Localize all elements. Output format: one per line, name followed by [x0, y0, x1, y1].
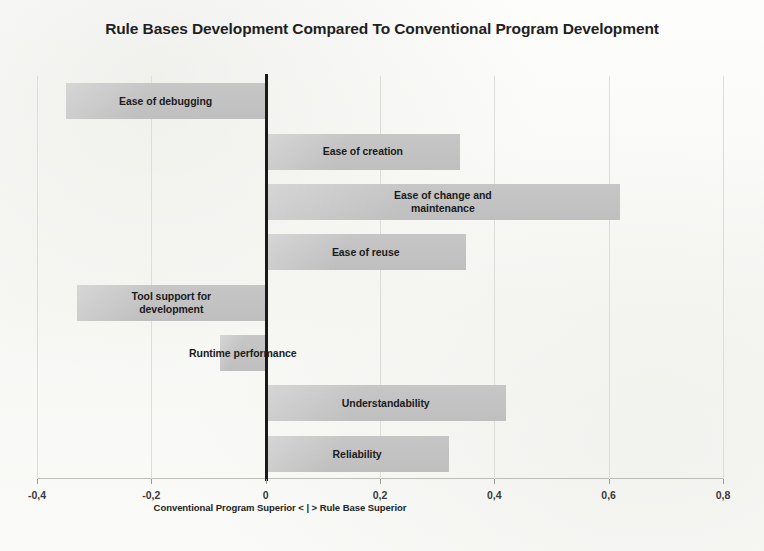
x-tick-label: 0: [263, 489, 269, 501]
x-tick-mark: [37, 479, 38, 484]
x-tick-label: 0,8: [716, 489, 731, 501]
bar-row: Reliability: [37, 432, 723, 476]
bar[interactable]: [220, 335, 266, 371]
bar[interactable]: [266, 436, 449, 472]
x-tick-label: 0,2: [373, 489, 388, 501]
chart-title: Rule Bases Development Compared To Conve…: [92, 18, 672, 39]
bar-row: Ease of reuse: [37, 230, 723, 274]
bar[interactable]: [66, 83, 266, 119]
x-tick-mark: [494, 479, 495, 484]
bar[interactable]: [266, 385, 506, 421]
gridline-6: [723, 76, 724, 479]
chart-page: Rule Bases Development Compared To Conve…: [0, 0, 764, 551]
bar-row: Ease of debugging: [37, 79, 723, 123]
bar-row: Tool support for development: [37, 281, 723, 325]
x-tick-mark: [151, 479, 152, 484]
x-tick-mark: [723, 479, 724, 484]
x-tick-label: -0,4: [28, 489, 46, 501]
bar-row: Ease of change and maintenance: [37, 180, 723, 224]
plot-area: Ease of debuggingEase of creationEase of…: [37, 76, 723, 479]
bar-row: Runtime performance: [37, 331, 723, 375]
bar[interactable]: [266, 184, 620, 220]
x-tick-mark: [380, 479, 381, 484]
bar[interactable]: [77, 285, 266, 321]
zero-axis-line: [265, 74, 268, 481]
x-tick-label: -0,2: [142, 489, 160, 501]
bar[interactable]: [266, 134, 460, 170]
x-tick-label: 0,6: [601, 489, 616, 501]
bar-row: Understandability: [37, 381, 723, 425]
bar-row: Ease of creation: [37, 130, 723, 174]
x-axis-caption: Conventional Program Superior < | > Rule…: [20, 502, 540, 513]
bar[interactable]: [266, 234, 466, 270]
x-tick-label: 0,4: [487, 489, 502, 501]
x-tick-mark: [609, 479, 610, 484]
x-tick-mark: [266, 479, 267, 484]
